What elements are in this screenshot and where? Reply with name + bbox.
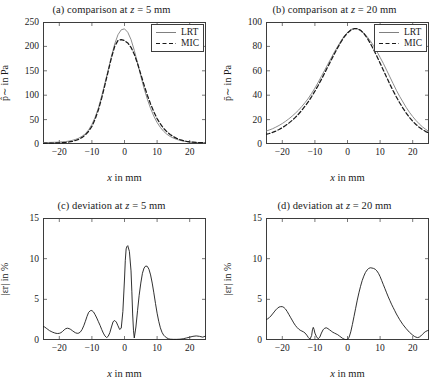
legend-label-lrt: LRT	[180, 27, 198, 38]
figure-panel-grid: (a) comparison at z = 5 mm p̂∼ in Pa −20…	[0, 0, 446, 392]
xtick-label: −20	[275, 147, 290, 157]
ytick-label: 10	[253, 254, 263, 264]
panel-d-ylabel: |εr| in %	[222, 218, 236, 340]
xtick-label: −10	[307, 343, 322, 353]
legend-label-mic: MIC	[180, 38, 199, 49]
ytick-label: 0	[34, 335, 39, 345]
ytick-label: 200	[25, 41, 39, 51]
panel-a-legend: LRT MIC	[151, 24, 204, 52]
panel-a-title-value: = 5 mm	[135, 4, 171, 15]
panel-d-ticks: −20−1001020051015	[266, 218, 429, 340]
ytick-label: 0	[34, 139, 39, 149]
legend-line-solid-icon	[155, 28, 177, 37]
xtick-label: 0	[345, 147, 350, 157]
panel-b-legend: LRT MIC	[374, 24, 427, 52]
panel-c-xlabel: x in mm	[43, 368, 206, 379]
panel-a-plot-area: −20−1001020050100150200250 LRT MIC	[43, 22, 206, 144]
panel-c-ticks: −20−1001020051015	[43, 218, 206, 340]
panel-c-title-prefix: (c) deviation at	[57, 200, 125, 211]
panel-b-plot-area: −20−1001020020406080100 LRT MIC	[266, 22, 429, 144]
panel-a: (a) comparison at z = 5 mm p̂∼ in Pa −20…	[0, 0, 223, 196]
panel-c: (c) deviation at z = 5 mm |εr| in % −20−…	[0, 196, 223, 392]
panel-a-title: (a) comparison at z = 5 mm	[0, 4, 223, 15]
ytick-label: 60	[253, 66, 263, 76]
panel-d-plot-area: −20−1001020051015	[266, 218, 429, 340]
panel-b-ylabel: p̄∼ in Pa	[222, 22, 236, 144]
ytick-label: 100	[25, 90, 39, 100]
xtick-label: 10	[152, 147, 162, 157]
panel-d-title-value: = 20 mm	[350, 200, 391, 211]
legend-entry-mic: MIC	[155, 38, 199, 49]
ytick-label: 50	[30, 115, 40, 125]
ytick-label: 10	[30, 254, 40, 264]
panel-d-title: (d) deviation at z = 20 mm	[223, 200, 446, 211]
panel-b-title-value: = 20 mm	[355, 4, 396, 15]
panel-d-title-prefix: (d) deviation at	[277, 200, 345, 211]
xtick-label: 20	[185, 343, 195, 353]
xtick-label: 20	[408, 147, 418, 157]
xtick-label: −20	[52, 343, 67, 353]
ytick-label: 0	[257, 139, 262, 149]
xtick-label: 10	[375, 343, 385, 353]
xtick-label: −20	[275, 343, 290, 353]
xtick-label: 0	[122, 343, 127, 353]
ytick-label: 0	[257, 335, 262, 345]
xtick-label: 0	[122, 147, 127, 157]
ytick-label: 5	[34, 294, 39, 304]
panel-d-xlabel: x in mm	[266, 368, 429, 379]
xtick-label: 10	[152, 343, 162, 353]
panel-c-plot-area: −20−1001020051015	[43, 218, 206, 340]
legend-entry-lrt: LRT	[378, 27, 422, 38]
ytick-label: 20	[253, 115, 263, 125]
legend-line-solid-icon	[378, 28, 400, 37]
xtick-label: −10	[307, 147, 322, 157]
ytick-label: 15	[30, 213, 40, 223]
panel-d: (d) deviation at z = 20 mm |εr| in % −20…	[223, 196, 446, 392]
panel-a-ylabel: p̂∼ in Pa	[0, 22, 13, 144]
ytick-label: 40	[253, 90, 263, 100]
panel-c-title: (c) deviation at z = 5 mm	[0, 200, 223, 211]
panel-b-title: (b) comparison at z = 20 mm	[223, 4, 446, 15]
ytick-label: 5	[257, 294, 262, 304]
ytick-label: 15	[253, 213, 263, 223]
ytick-label: 250	[25, 17, 39, 27]
ytick-label: 80	[253, 41, 263, 51]
legend-entry-mic: MIC	[378, 38, 422, 49]
xtick-label: −10	[84, 343, 99, 353]
ytick-label: 150	[25, 66, 39, 76]
panel-b: (b) comparison at z = 20 mm p̄∼ in Pa −2…	[223, 0, 446, 196]
legend-label-mic: MIC	[403, 38, 422, 49]
panel-c-ylabel: |εr| in %	[0, 218, 13, 340]
panel-a-xlabel: x in mm	[43, 172, 206, 183]
panel-b-title-prefix: (b) comparison at	[272, 4, 350, 15]
xtick-label: 20	[185, 147, 195, 157]
xtick-label: 0	[345, 343, 350, 353]
legend-line-dashed-icon	[378, 39, 400, 48]
panel-b-xlabel: x in mm	[266, 172, 429, 183]
xtick-label: −20	[52, 147, 67, 157]
legend-label-lrt: LRT	[403, 27, 421, 38]
xtick-label: 10	[375, 147, 385, 157]
legend-line-dashed-icon	[155, 39, 177, 48]
panel-a-title-prefix: (a) comparison at	[52, 4, 130, 15]
ytick-label: 100	[248, 17, 262, 27]
legend-entry-lrt: LRT	[155, 27, 199, 38]
xtick-label: −10	[84, 147, 99, 157]
xtick-label: 20	[408, 343, 418, 353]
panel-c-title-value: = 5 mm	[129, 200, 165, 211]
